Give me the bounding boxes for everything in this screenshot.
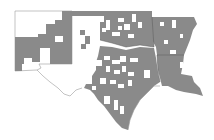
texas-west-counties — [80, 30, 90, 49]
state-new-mexico — [15, 11, 72, 71]
state-arkansas — [152, 17, 197, 55]
state-louisiana — [157, 55, 203, 96]
county-choropleth-map — [0, 0, 214, 140]
state-oklahoma — [72, 11, 154, 47]
